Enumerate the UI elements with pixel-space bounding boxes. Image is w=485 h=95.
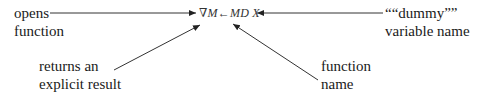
label-line: ““dummy”” [385,4,470,22]
label-line: variable name [385,22,470,40]
label-line: name [321,75,371,93]
label-line: returns an [39,57,121,75]
label-line: function [321,57,371,75]
label-line: explicit result [39,75,121,93]
label-line: function [14,22,64,40]
arrow-function-name [233,24,318,80]
label-dummy-variable: ““dummy”” variable name [385,4,470,40]
label-line: opens [14,4,64,22]
label-opens-function: opens function [14,4,64,40]
arrow-returns-result [114,25,200,70]
label-returns-result: returns an explicit result [39,57,121,93]
function-header-code: ∇M←MD X [199,6,260,20]
label-function-name: function name [321,57,371,93]
